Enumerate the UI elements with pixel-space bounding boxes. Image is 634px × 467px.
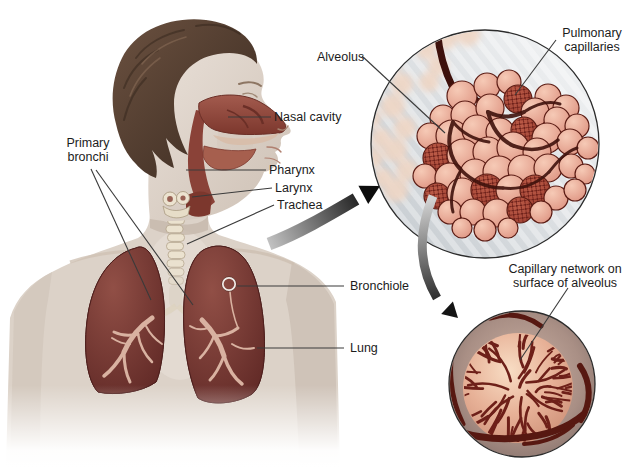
label-lung: Lung — [350, 341, 378, 355]
respiratory-system-diagram: Primary bronchi Nasal cavity Pharynx Lar… — [0, 0, 634, 467]
label-bronchiole: Bronchiole — [350, 279, 409, 293]
label-pulmonary-capillaries: Pulmonary capillaries — [558, 26, 626, 55]
label-alveolus: Alveolus — [317, 50, 364, 64]
head — [113, 19, 291, 221]
label-primary-bronchi: Primary bronchi — [56, 136, 120, 165]
label-larynx: Larynx — [275, 181, 313, 195]
label-trachea: Trachea — [277, 198, 322, 212]
diagram-artwork — [0, 0, 634, 467]
label-nasal-cavity: Nasal cavity — [274, 110, 341, 124]
label-capillary-network: Capillary network on surface of alveolus — [506, 262, 624, 291]
label-pharynx: Pharynx — [269, 163, 315, 177]
capillary-inset — [449, 311, 595, 459]
alveoli-inset — [361, 22, 599, 258]
